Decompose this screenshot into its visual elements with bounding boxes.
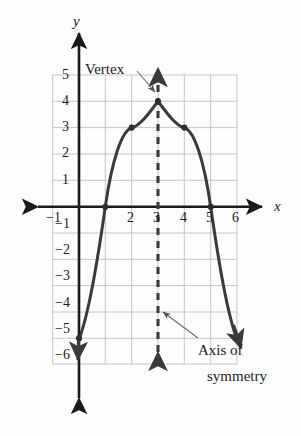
point-vertex: [155, 98, 161, 104]
x-tick-5: 5: [206, 211, 213, 225]
y-tick--5: −5: [55, 322, 70, 336]
point-4-3: [181, 125, 187, 131]
x-axis-label: x: [274, 199, 281, 214]
y-tick--1: −1: [55, 217, 70, 231]
y-tick--4: −4: [55, 296, 70, 310]
y-axis-label: y: [73, 14, 80, 29]
y-tick-4: 4: [62, 94, 69, 108]
graph-figure: y x Vertex Axis of symmetry −123456 5432…: [0, 0, 301, 436]
point-2-3: [129, 125, 135, 131]
y-tick-5: 5: [62, 68, 69, 82]
x-tick-4: 4: [180, 211, 187, 225]
y-tick--2: −2: [55, 243, 70, 257]
x-tick-3: 3: [153, 211, 160, 225]
y-tick-3: 3: [62, 120, 69, 134]
axis-of-symmetry-leader-line: [163, 312, 198, 338]
y-tick--3: −3: [55, 269, 70, 283]
axis-of-symmetry-annotation-line1: Axis of: [198, 343, 243, 358]
axis-of-symmetry-annotation-line2: symmetry: [207, 369, 267, 384]
x-tick-2: 2: [127, 211, 134, 225]
vertex-annotation-label: Vertex: [85, 62, 124, 77]
y-tick-2: 2: [62, 146, 69, 160]
x-tick-6: 6: [232, 211, 239, 225]
point-x-intercept-1: [102, 204, 108, 210]
point-x-intercept-5: [208, 204, 214, 210]
point-y-intercept: [76, 335, 82, 341]
y-tick-1: 1: [62, 173, 69, 187]
y-tick--6: −6: [55, 348, 70, 362]
vertex-leader-line: [137, 71, 155, 92]
